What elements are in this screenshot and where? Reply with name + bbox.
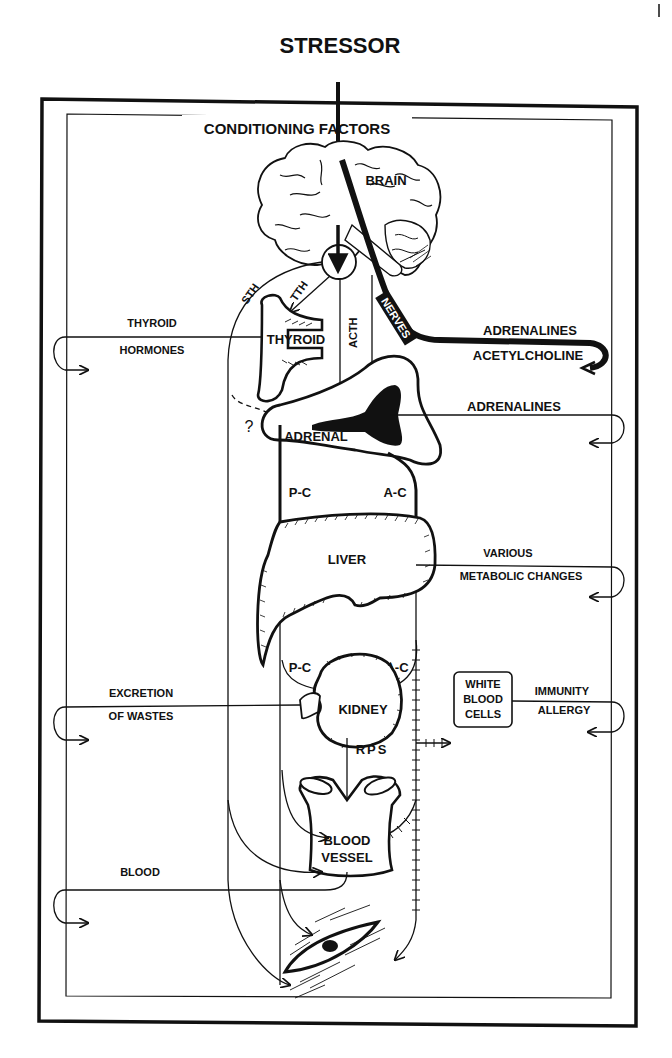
label-excretion: EXCRETION xyxy=(109,687,173,699)
label-sth: STH xyxy=(239,281,261,306)
stress-response-diagram: STRESSOR CONDITIONING FACTORS BRAIN NERV… xyxy=(0,0,672,1058)
label-wbc-3: CELLS xyxy=(465,708,501,720)
label-blood: BLOOD xyxy=(120,866,160,878)
label-thyroid-hormones-2: HORMONES xyxy=(120,344,185,356)
label-wbc-2: BLOOD xyxy=(463,693,503,705)
label-pc-upper: P-C xyxy=(289,485,312,500)
label-immunity: IMMUNITY xyxy=(535,685,590,697)
label-of-wastes: OF WASTES xyxy=(109,710,174,722)
label-adrenal: ADRENAL xyxy=(284,429,348,444)
excretion-pathway xyxy=(54,705,300,740)
label-liver: LIVER xyxy=(328,552,367,567)
label-tth: TTH xyxy=(288,279,310,303)
label-kidney: KIDNEY xyxy=(338,702,387,717)
label-brain: BRAIN xyxy=(365,173,406,188)
label-metabolic-changes: METABOLIC CHANGES xyxy=(460,570,583,582)
cell-icon xyxy=(285,905,385,998)
label-rps: RPS xyxy=(356,742,389,757)
label-thyroid-hormones-1: THYROID xyxy=(127,317,177,329)
label-various: VARIOUS xyxy=(483,547,532,559)
label-pc-lower: P-C xyxy=(289,660,312,675)
label-adrenalines: ADRENALINES xyxy=(467,399,561,414)
label-allergy: ALLERGY xyxy=(538,704,591,716)
label-wbc-1: WHITE xyxy=(465,678,500,690)
label-question: ? xyxy=(245,418,254,435)
label-blood-vessel-2: VESSEL xyxy=(321,850,372,865)
label-thyroid: THYROID xyxy=(267,332,326,347)
frame-label-conditioning-factors: CONDITIONING FACTORS xyxy=(204,120,390,137)
label-nerves: NERVES xyxy=(379,296,413,341)
title-stressor: STRESSOR xyxy=(279,33,400,58)
thyroid-icon xyxy=(258,295,322,401)
label-adrenalines-nerve: ADRENALINES xyxy=(483,323,577,338)
label-blood-vessel-1: BLOOD xyxy=(324,833,371,848)
label-ac-upper: A-C xyxy=(383,485,407,500)
liver-icon xyxy=(258,514,436,665)
label-acetylcholine: ACETYLCHOLINE xyxy=(473,348,584,363)
blood-pathway xyxy=(54,872,347,923)
label-acth: ACTH xyxy=(347,317,359,348)
